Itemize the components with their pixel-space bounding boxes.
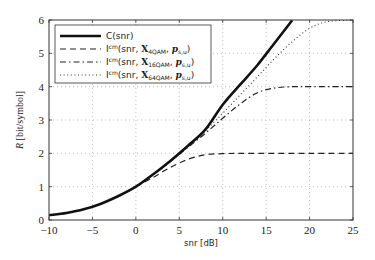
legend-label: C(snr) [106,31,133,41]
svg-text:R [bit/symbol]: R [bit/symbol] [14,91,25,150]
x-tick-label: 10 [217,224,229,236]
x-tick-label: 15 [261,224,273,236]
y-axis-unit: [bit/symbol] [14,91,25,143]
y-tick-label: 2 [39,147,45,159]
y-axis-symbol: R [14,143,25,150]
qam16-curve [136,87,353,187]
y-tick-label: 5 [39,47,45,59]
y-axis-label: R [bit/symbol] [14,91,25,150]
chart: −10−505101520250123456 snr [dB] R [bit/s… [0,0,375,260]
y-tick-label: 1 [39,181,45,193]
x-tick-label: 20 [304,224,316,236]
x-tick-label: 5 [177,224,183,236]
x-tick-label: 0 [133,224,139,236]
legend: C(snr)Icm(snr, X4QAM, ps,u)Icm(snr, X16Q… [55,25,211,83]
x-tick-label: 25 [348,224,360,236]
y-tick-label: 0 [39,214,45,226]
y-tick-label: 4 [39,81,45,93]
y-tick-label: 3 [39,114,45,126]
x-axis-label: snr [dB] [184,238,218,248]
qam4-curve [136,153,353,186]
y-tick-label: 6 [39,14,45,26]
x-tick-label: −5 [87,224,99,236]
